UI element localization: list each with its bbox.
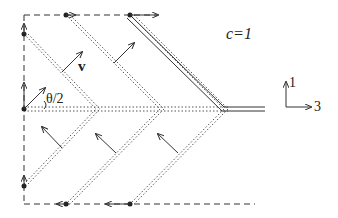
dotted-wavefronts bbox=[24, 15, 228, 204]
axis-3-label: 3 bbox=[314, 100, 321, 114]
points bbox=[22, 13, 133, 207]
speed-of-light-label: c=1 bbox=[226, 26, 252, 42]
diagram: c=1 v θ/2 1 3 bbox=[0, 0, 338, 218]
diagram-canvas bbox=[0, 0, 338, 218]
velocity-arrows bbox=[24, 15, 178, 204]
angle-label: θ/2 bbox=[46, 92, 64, 106]
velocity-label: v bbox=[78, 59, 86, 74]
axis-1-label: 1 bbox=[289, 76, 296, 90]
